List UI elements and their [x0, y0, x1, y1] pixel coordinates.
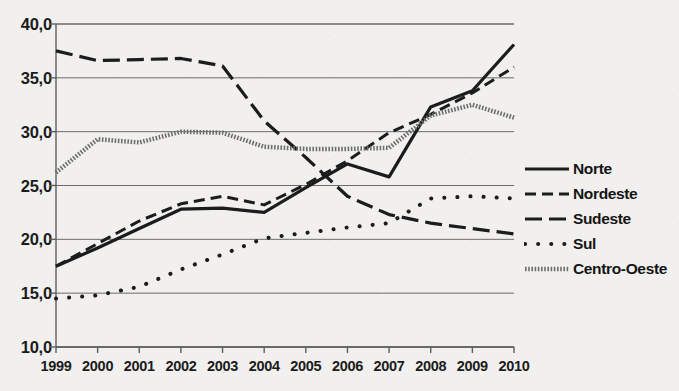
legend-item-nordeste[interactable]: Nordeste — [524, 181, 674, 206]
x-axis: 1999200020012002200320042005200620072008… — [0, 352, 679, 382]
axis-tickmarks — [50, 24, 514, 353]
data-series-layer — [56, 44, 514, 298]
gridlines — [56, 24, 514, 347]
legend-swatch-fine-hatch-icon — [524, 262, 570, 276]
legend-item-sul[interactable]: Sul — [524, 231, 674, 256]
legend-label: Norte — [573, 160, 612, 178]
legend-swatch-dashed-icon — [524, 187, 570, 201]
x-tick-label: 2004 — [249, 358, 280, 374]
x-tick-label: 2005 — [290, 358, 321, 374]
legend-item-centro-oeste[interactable]: Centro-Oeste — [524, 256, 674, 281]
legend-swatch-dotted-icon — [524, 237, 570, 251]
x-tick-label: 1999 — [40, 358, 71, 374]
legend-label: Centro-Oeste — [573, 260, 667, 278]
x-tick-label: 2006 — [332, 358, 363, 374]
chart-legend: NorteNordesteSudesteSulCentro-Oeste — [524, 156, 674, 281]
legend-swatch-long-dash-icon — [524, 212, 570, 226]
x-tick-label: 2007 — [374, 358, 405, 374]
x-tick-label: 2001 — [124, 358, 155, 374]
legend-item-sudeste[interactable]: Sudeste — [524, 206, 674, 231]
x-tick-label: 2008 — [415, 358, 446, 374]
series-line-sul — [56, 196, 514, 298]
chart-container: 40,035,030,025,020,015,010,0 19992000200… — [0, 0, 679, 391]
x-tick-label: 2002 — [165, 358, 196, 374]
x-tick-label: 2003 — [207, 358, 238, 374]
legend-label: Nordeste — [573, 185, 637, 203]
legend-swatch-solid-icon — [524, 162, 570, 176]
legend-label: Sudeste — [573, 210, 631, 228]
x-tick-label: 2010 — [498, 358, 529, 374]
legend-item-norte[interactable]: Norte — [524, 156, 674, 181]
x-tick-label: 2009 — [457, 358, 488, 374]
x-tick-label: 2000 — [82, 358, 113, 374]
legend-label: Sul — [573, 235, 596, 253]
